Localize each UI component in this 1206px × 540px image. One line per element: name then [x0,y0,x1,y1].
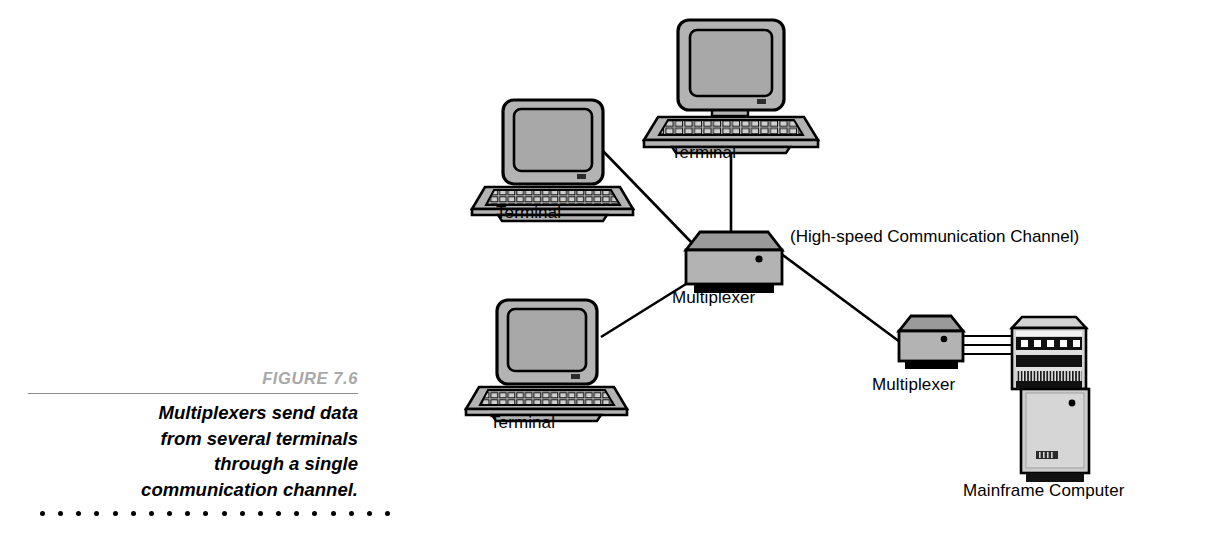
figure-page: Terminal Terminal Terminal Multiplexer M… [0,0,1206,540]
caption-dot [222,511,227,516]
caption-divider [28,393,358,394]
label-multiplexer-center: Multiplexer [672,288,755,308]
multiplexer-right-icon [899,316,963,369]
caption-dot [276,511,281,516]
caption-line: from several terminals [28,426,358,452]
label-terminal-bottom: Terminal [490,413,555,433]
label-high-speed-channel: (High-speed Communication Channel) [790,227,1079,247]
caption-dot [40,511,45,516]
figure-caption-text: Multiplexers send data from several term… [28,400,358,502]
label-multiplexer-right: Multiplexer [872,375,955,395]
terminal-bottom-icon [466,300,627,421]
caption-dot [167,511,172,516]
label-terminal-top: Terminal [671,143,736,163]
caption-dot [203,511,208,516]
figure-number: FIGURE 7.6 [28,368,358,388]
caption-dot [331,511,336,516]
caption-dot [149,511,154,516]
caption-line: Multiplexers send data [28,400,358,426]
caption-dot [312,511,317,516]
caption-dot [131,511,136,516]
link-high-speed-channel [776,250,900,342]
caption-dot [94,511,99,516]
caption-dot [367,511,372,516]
caption-line: through a single [28,451,358,477]
caption-dot [185,511,190,516]
mainframe-icon [1012,317,1089,482]
multiplexer-center-icon [686,232,782,293]
caption-dot-rule [40,511,390,516]
figure-caption-block: FIGURE 7.6 Multiplexers send data from s… [28,368,358,516]
label-terminal-left: Terminal [496,203,561,223]
caption-dot [240,511,245,516]
caption-dot [258,511,263,516]
label-mainframe: Mainframe Computer [963,481,1124,501]
terminal-top-icon [644,20,818,153]
caption-dot [76,511,81,516]
caption-dot [349,511,354,516]
link-triple-cable [963,336,1014,354]
caption-dot [294,511,299,516]
caption-line: communication channel. [28,477,358,503]
caption-dot [385,511,390,516]
caption-dot [58,511,63,516]
caption-dot [113,511,118,516]
